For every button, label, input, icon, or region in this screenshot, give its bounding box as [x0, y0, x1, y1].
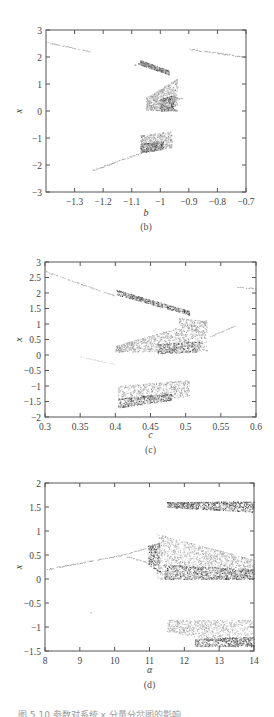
x-tick-label: 9	[77, 656, 82, 666]
x-axis-label: b	[144, 207, 149, 218]
y-tick-label: −2	[32, 161, 42, 171]
x-axis: 891011121314	[43, 483, 259, 666]
y-tick-label: 2	[36, 289, 41, 299]
plot-area: 891011121314−1.5−1−0.500.511.52αx(d)	[13, 479, 259, 692]
y-tick-label: −0.5	[24, 366, 41, 376]
y-tick-label: 0.5	[29, 551, 41, 561]
x-tick-label: −0.9	[180, 197, 197, 207]
sub-caption: (c)	[145, 444, 156, 456]
y-tick-label: 0	[37, 107, 42, 117]
x-tick-label: 14	[249, 656, 259, 666]
x-tick-label: 0.6	[250, 422, 262, 432]
plot-area: 0.30.350.40.450.50.550.6−2−1.5−1−0.500.5…	[13, 258, 262, 457]
figure-caption: 图 5.10 参数对系统 x 分量分岔图的影响	[18, 708, 258, 717]
y-tick-label: −1.5	[24, 397, 41, 407]
y-tick-label: 1	[36, 320, 41, 330]
y-axis-label: x	[13, 108, 24, 114]
x-axis-label: c	[148, 429, 153, 440]
y-axis: −1.5−1−0.500.511.52	[24, 479, 254, 657]
plot-frame	[46, 30, 246, 192]
x-tick-label: −1.1	[123, 197, 140, 207]
y-tick-label: 1	[37, 80, 42, 90]
x-tick-label: 11	[145, 656, 154, 666]
plot-frame	[45, 262, 256, 417]
x-tick-label: 13	[214, 656, 224, 666]
x-tick-label: 0.4	[109, 422, 121, 432]
plot-frame	[45, 483, 254, 651]
x-tick-label: 0.3	[39, 422, 51, 432]
x-tick-label: −1	[155, 197, 165, 207]
chart-panel-b: −1.3−1.2−1.1−1−0.9−0.8−0.7−3−2−10123bx(b…	[0, 0, 274, 240]
y-axis-label: x	[13, 337, 24, 343]
x-tick-label: 10	[110, 656, 120, 666]
x-tick-label: 8	[43, 656, 48, 666]
bifurcation-chart-b: −1.3−1.2−1.1−1−0.9−0.8−0.7−3−2−10123bx(b…	[0, 0, 274, 240]
y-tick-label: −3	[32, 188, 42, 198]
x-tick-label: −1.2	[95, 197, 112, 207]
y-tick-label: 2	[37, 53, 42, 63]
sub-caption: (b)	[140, 221, 152, 233]
x-tick-label: −0.8	[209, 197, 226, 207]
y-tick-label: 2.5	[29, 273, 41, 283]
data-points	[46, 42, 246, 171]
y-tick-label: −2	[31, 413, 41, 423]
data-points	[47, 501, 255, 647]
y-tick-label: 2	[36, 479, 41, 489]
x-tick-label: 0.55	[213, 422, 230, 432]
y-tick-label: 1.5	[29, 503, 41, 513]
x-axis-label: α	[147, 664, 153, 675]
y-axis: −3−2−10123	[32, 26, 246, 198]
y-tick-label: 1.5	[29, 304, 41, 314]
y-tick-label: −1	[31, 623, 41, 633]
x-tick-label: 12	[180, 656, 190, 666]
x-tick-label: 0.45	[142, 422, 159, 432]
y-tick-label: −1.5	[24, 647, 41, 657]
x-axis: 0.30.350.40.450.50.550.6	[39, 262, 262, 432]
x-tick-label: 0.35	[72, 422, 89, 432]
sub-caption: (d)	[144, 679, 156, 691]
plot-area: −1.3−1.2−1.1−1−0.9−0.8−0.7−3−2−10123bx(b…	[13, 26, 255, 234]
x-axis: −1.3−1.2−1.1−1−0.9−0.8−0.7	[66, 30, 255, 207]
y-tick-label: 0.5	[29, 335, 41, 345]
y-axis: −2−1.5−1−0.500.511.522.53	[24, 258, 256, 423]
x-tick-label: −1.3	[66, 197, 83, 207]
x-tick-label: −0.7	[237, 197, 254, 207]
data-points	[46, 271, 257, 408]
y-tick-label: 0	[36, 351, 41, 361]
y-axis-label: x	[13, 564, 24, 570]
x-tick-label: 0.5	[180, 422, 192, 432]
y-tick-label: 3	[36, 258, 41, 268]
y-tick-label: −0.5	[24, 599, 41, 609]
y-tick-label: 1	[36, 527, 41, 537]
y-tick-label: −1	[32, 134, 42, 144]
y-tick-label: 3	[37, 26, 42, 36]
y-tick-label: 0	[36, 575, 41, 585]
y-tick-label: −1	[31, 382, 41, 392]
